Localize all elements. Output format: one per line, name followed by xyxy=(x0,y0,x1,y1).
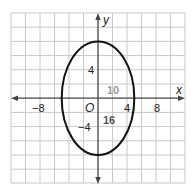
minor-axis-length-annotation: 10 xyxy=(107,84,119,96)
x-tick-8: 8 xyxy=(154,102,160,114)
major-axis-length-annotation: 16 xyxy=(103,114,115,126)
x-axis-left-arrow-icon xyxy=(11,96,18,102)
y-tick-4: 4 xyxy=(88,64,94,76)
x-axis-label: x xyxy=(175,83,183,97)
coordinate-graph: y x O −8 4 8 4 −4 10 16 xyxy=(0,0,194,194)
x-tick-4: 4 xyxy=(124,102,130,114)
y-axis-up-arrow-icon xyxy=(95,13,100,20)
y-tick-neg4: −4 xyxy=(78,121,91,133)
y-axis-label: y xyxy=(102,13,110,27)
x-tick-neg8: −8 xyxy=(32,102,45,114)
origin-label: O xyxy=(85,101,94,115)
